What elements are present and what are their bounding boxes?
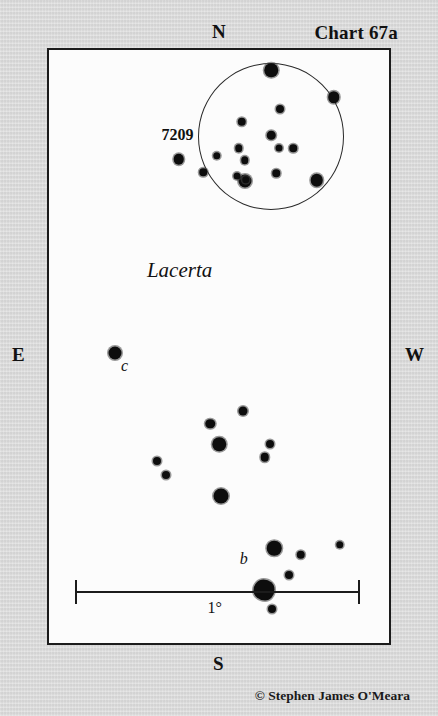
star-marker — [266, 440, 274, 448]
star-c — [109, 347, 122, 360]
star-marker — [268, 605, 276, 613]
star-label-b: b — [240, 550, 248, 568]
cluster-name-label: 7209 — [162, 126, 194, 144]
star-marker — [276, 144, 283, 151]
star-marker — [214, 488, 229, 503]
star-marker — [153, 457, 161, 465]
star-marker — [212, 438, 226, 452]
star-field: Lacerta7209cb1° — [49, 50, 389, 643]
star-marker — [235, 145, 243, 153]
star-marker — [238, 406, 247, 415]
star-marker — [289, 145, 297, 153]
star-marker — [213, 152, 221, 160]
star-marker — [238, 118, 247, 127]
star-b — [267, 541, 282, 556]
star-marker — [173, 154, 184, 165]
star-chart-frame: Lacerta7209cb1° — [47, 48, 391, 645]
star-marker — [253, 580, 274, 601]
cardinal-north-label: N — [212, 22, 226, 41]
star-marker — [336, 541, 344, 549]
constellation-label: Lacerta — [147, 258, 212, 283]
star-marker — [241, 157, 249, 165]
star-marker — [328, 92, 340, 104]
star-marker — [162, 471, 170, 479]
star-marker — [297, 550, 306, 559]
star-label-c: c — [121, 357, 128, 375]
star-marker — [311, 174, 324, 187]
star-marker — [199, 168, 207, 176]
star-marker — [285, 571, 293, 579]
cardinal-west-label: W — [405, 345, 424, 364]
star-marker — [233, 173, 240, 180]
star-marker — [276, 105, 284, 113]
scale-bar-label: 1° — [208, 599, 222, 617]
star-marker — [267, 131, 276, 140]
star-marker — [265, 63, 279, 77]
scale-bar-line — [75, 591, 359, 593]
cardinal-east-label: E — [12, 345, 25, 364]
cardinal-south-label: S — [213, 654, 224, 673]
copyright-credit: © Stephen James O'Meara — [255, 688, 410, 704]
star-marker — [273, 170, 281, 178]
scale-tick-left — [75, 580, 77, 604]
scale-tick-right — [358, 580, 360, 604]
star-marker — [205, 419, 215, 429]
chart-title: Chart 67a — [314, 22, 398, 44]
star-marker — [242, 176, 250, 184]
star-marker — [260, 453, 269, 462]
